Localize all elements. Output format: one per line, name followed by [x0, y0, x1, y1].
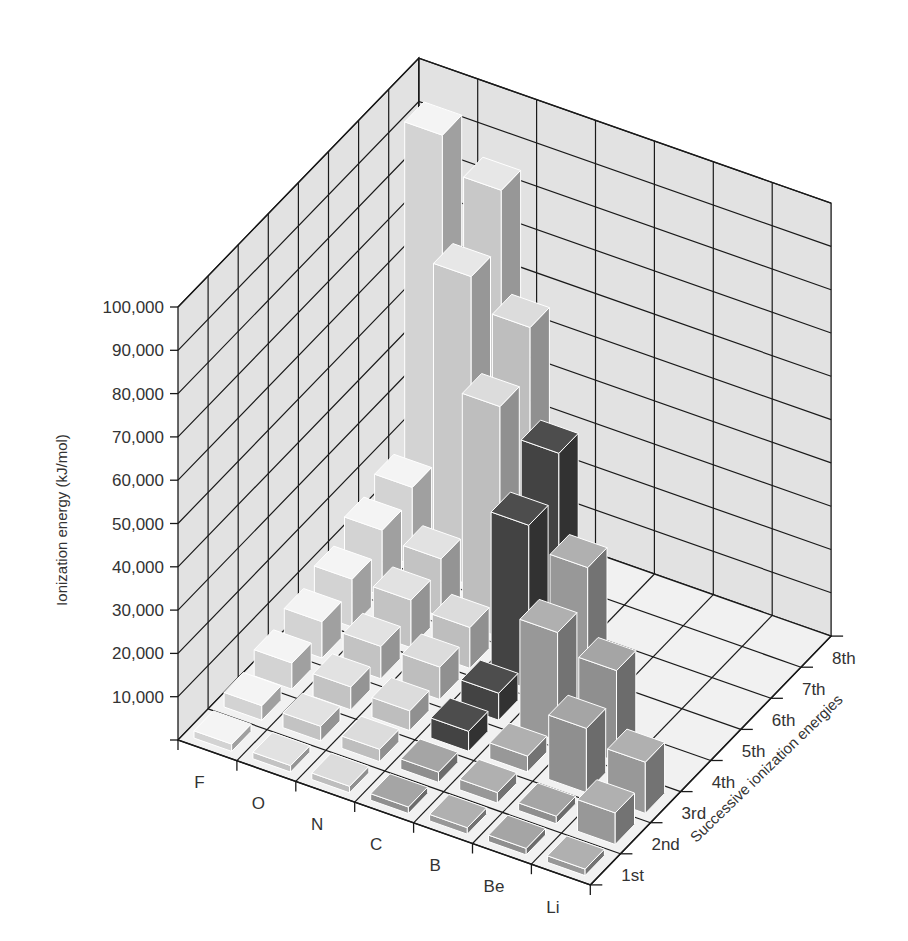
- element-label: C: [370, 835, 382, 854]
- bar-Be-3rd: [549, 695, 606, 793]
- ionization-order-label: 7th: [802, 680, 826, 699]
- ionization-order-label: 2nd: [651, 835, 679, 854]
- y-tick-label: 90,000: [112, 341, 164, 360]
- y-tick-label: 70,000: [112, 428, 164, 447]
- y-tick-label: 50,000: [112, 515, 164, 534]
- element-label: Li: [546, 898, 559, 917]
- element-label: N: [311, 815, 323, 834]
- ionization-energy-3d-bar-chart: 10,00020,00030,00040,00050,00060,00070,0…: [0, 0, 908, 941]
- element-label: B: [429, 856, 440, 875]
- y-tick-label: 80,000: [112, 385, 164, 404]
- y-tick-label: 40,000: [112, 558, 164, 577]
- ionization-order-label: 1st: [621, 866, 644, 885]
- y-axis-title: Ionization energy (kJ/mol): [53, 434, 70, 606]
- y-tick-label: 30,000: [112, 601, 164, 620]
- ionization-order-label: 8th: [832, 649, 856, 668]
- ionization-order-label: 6th: [772, 711, 796, 730]
- y-tick-label: 10,000: [112, 688, 164, 707]
- element-label: F: [194, 773, 204, 792]
- y-tick-label: 100,000: [103, 298, 164, 317]
- y-tick-label: 20,000: [112, 644, 164, 663]
- ionization-order-label: 5th: [742, 742, 766, 761]
- y-tick-label: 60,000: [112, 471, 164, 490]
- element-label: Be: [484, 877, 505, 896]
- element-label: O: [252, 794, 265, 813]
